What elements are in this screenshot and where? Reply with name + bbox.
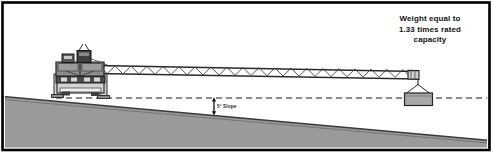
border-rect-inner-highlight [5, 5, 488, 149]
border-rect-outer [3, 3, 490, 151]
figure-root: Weight equal to 1.33 times rated capacit… [0, 0, 493, 153]
figure-border [0, 0, 493, 153]
